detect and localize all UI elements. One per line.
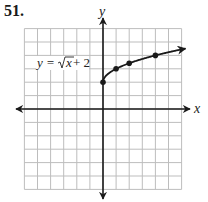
equation-suffix: + 2 xyxy=(73,55,90,70)
data-point xyxy=(126,61,132,67)
x-axis-label: x xyxy=(193,101,201,116)
data-point xyxy=(113,66,119,72)
data-point xyxy=(153,53,159,59)
data-point xyxy=(100,79,106,85)
y-axis-label: y xyxy=(97,4,106,19)
function-curve xyxy=(103,49,186,83)
equation-radicand: x xyxy=(65,55,72,70)
axes xyxy=(16,18,190,199)
graph: x y y = x + 2 xyxy=(0,0,208,202)
equation-prefix: y = xyxy=(35,55,55,70)
curve-path xyxy=(103,49,186,83)
